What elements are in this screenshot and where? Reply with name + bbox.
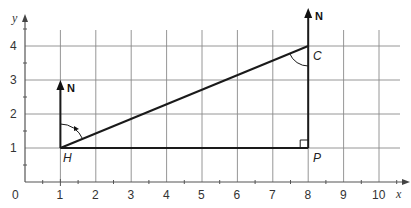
y-tick-label: 1: [10, 141, 17, 155]
x-tick-label: 1: [57, 188, 64, 202]
point-label-p: P: [313, 151, 321, 165]
x-tick-label: 10: [372, 188, 386, 202]
coordinate-diagram: 0 1 2 3 4 5 6 7 8 9 10 x 1 2 3 4 y N N: [0, 0, 411, 208]
north-arrow-icon: [56, 80, 64, 90]
north-label: N: [315, 10, 323, 22]
north-label: N: [67, 82, 75, 94]
point-label-c: C: [313, 49, 322, 63]
x-tick-label: 2: [92, 188, 99, 202]
north-arrow-icon: [304, 8, 312, 18]
y-axis-label: y: [11, 11, 18, 25]
right-angle-marker-icon: [300, 140, 308, 148]
x-tick-label: 5: [198, 188, 205, 202]
x-tick-labels: 0 1 2 3 4 5 6 7 8 9 10 x: [12, 187, 402, 202]
x-axis-arrow-icon: [402, 179, 410, 185]
y-tick-label: 3: [10, 73, 17, 87]
grid: [25, 30, 400, 182]
x-tick-label: 3: [128, 188, 135, 202]
north-arrow-c: N: [304, 8, 323, 46]
line-hc: [60, 46, 308, 148]
triangle-hcp: [60, 46, 308, 148]
x-tick-label: 9: [340, 188, 347, 202]
y-axis-arrow-icon: [22, 14, 28, 22]
x-tick-label: 4: [163, 188, 170, 202]
y-tick-label: 4: [10, 39, 17, 53]
x-tick-label: 7: [269, 188, 276, 202]
axes: [22, 14, 410, 186]
y-tick-label: 2: [10, 107, 17, 121]
y-tick-labels: 1 2 3 4 y: [10, 11, 18, 155]
x-tick-label: 8: [305, 188, 312, 202]
bearing-arc-h: [60, 124, 82, 139]
angle-arc-c: [290, 54, 309, 66]
point-label-h: H: [63, 151, 72, 165]
x-axis-label: x: [395, 187, 402, 201]
origin-label: 0: [12, 188, 19, 202]
x-tick-label: 6: [234, 188, 241, 202]
